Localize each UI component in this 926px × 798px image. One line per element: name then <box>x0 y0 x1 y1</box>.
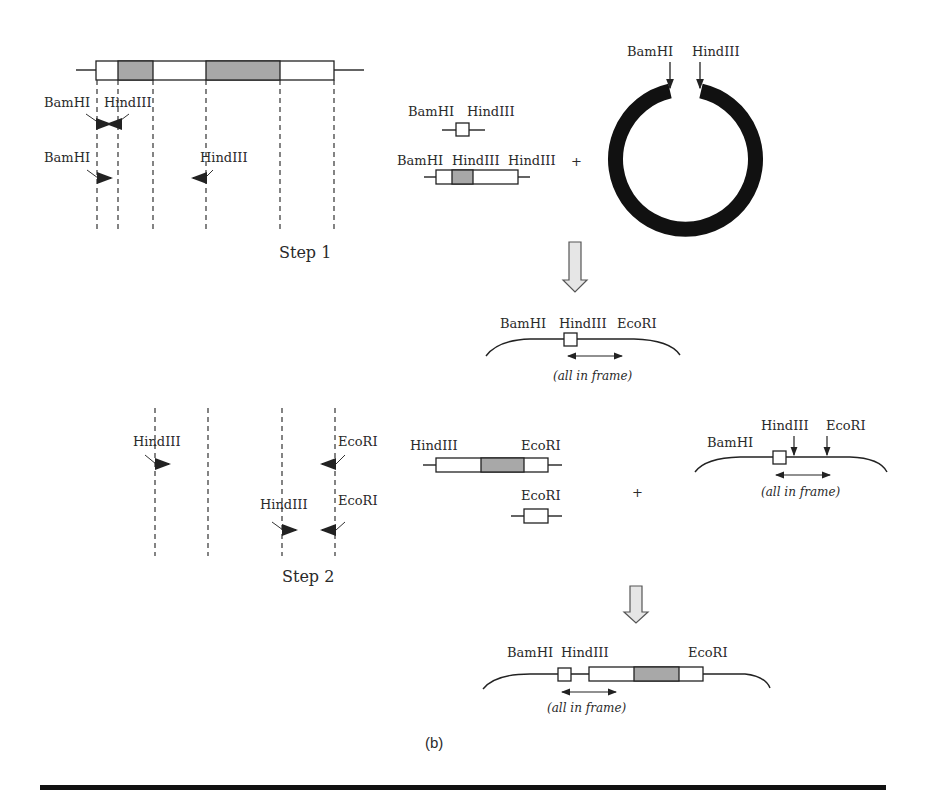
site-label-hindiii: HindIII <box>692 44 740 59</box>
site-label-bamhi: BamHI <box>507 645 553 660</box>
exon-shaded-1 <box>118 61 153 80</box>
site-label-hindiii: HindIII <box>561 645 609 660</box>
site-label-bamhi: BamHI <box>707 435 753 450</box>
step1-fragment-small: BamHI HindIII <box>408 104 515 136</box>
step1-primer-row-2: BamHI HindIII <box>44 150 248 178</box>
final-construct: BamHI HindIII EcoRI (all in frame) <box>483 645 770 715</box>
primer-label-hindiii: HindIII <box>260 497 308 512</box>
bottom-rule <box>40 785 886 790</box>
site-label-hindiii: HindIII <box>761 418 809 433</box>
primer-label-hindiii: HindIII <box>133 434 181 449</box>
site-label-bamhi: BamHI <box>408 104 454 119</box>
intermediate-construct: BamHI HindIII EcoRI (all in frame) <box>486 316 680 383</box>
site-label-hindiii: HindIII <box>559 316 607 331</box>
site-label-bamhi: BamHI <box>500 316 546 331</box>
step2-vector: BamHI HindIII EcoRI (all in frame) <box>695 418 887 499</box>
site-label-hindiii: HindIII <box>452 153 500 168</box>
primer-label-ecori: EcoRI <box>338 434 378 449</box>
process-arrow-2 <box>624 586 648 623</box>
in-frame-note: (all in frame) <box>553 369 633 383</box>
primer-label-bamhi: BamHI <box>44 95 90 110</box>
site-label-hindiii: HindIII <box>508 153 556 168</box>
plasmid-vector: BamHI HindIII <box>615 44 755 229</box>
step-1-label: Step 1 <box>279 243 331 262</box>
plasmid-ring <box>615 91 755 229</box>
in-frame-note: (all in frame) <box>547 701 627 715</box>
step2-fragment-large: HindIII EcoRI <box>410 438 562 472</box>
site-label-ecori: EcoRI <box>826 418 866 433</box>
site-label-bamhi: BamHI <box>397 153 443 168</box>
site-label-ecori: EcoRI <box>521 488 561 503</box>
primer-label-ecori: EcoRI <box>338 493 378 508</box>
site-label-ecori: EcoRI <box>521 438 561 453</box>
primer-label-hindiii: HindIII <box>104 95 152 110</box>
cloning-diagram: BamHI HindIII BamHI HindIII Step 1 BamHI… <box>0 0 926 798</box>
process-arrow-1 <box>563 242 587 292</box>
in-frame-note: (all in frame) <box>761 485 841 499</box>
step2-primer-row-1: HindIII EcoRI <box>133 434 378 464</box>
site-label-ecori: EcoRI <box>617 316 657 331</box>
site-label-ecori: EcoRI <box>688 645 728 660</box>
step2-guide-lines <box>155 408 335 556</box>
exon-shaded-2 <box>206 61 280 80</box>
plus-sign: + <box>632 485 643 500</box>
step-2-label: Step 2 <box>282 567 334 586</box>
plus-sign: + <box>571 154 582 169</box>
step1-primer-row-1: BamHI HindIII <box>44 95 152 124</box>
primer-label-bamhi: BamHI <box>44 150 90 165</box>
step2-primer-row-2: HindIII EcoRI <box>260 493 378 530</box>
site-label-hindiii: HindIII <box>410 438 458 453</box>
step1-gene-map <box>76 61 364 232</box>
step2-fragment-small: EcoRI <box>511 488 562 523</box>
site-label-bamhi: BamHI <box>627 44 673 59</box>
panel-label: (b) <box>425 734 443 751</box>
step1-fragment-large: BamHI HindIII HindIII + <box>397 153 582 184</box>
primer-label-hindiii: HindIII <box>200 150 248 165</box>
site-label-hindiii: HindIII <box>467 104 515 119</box>
